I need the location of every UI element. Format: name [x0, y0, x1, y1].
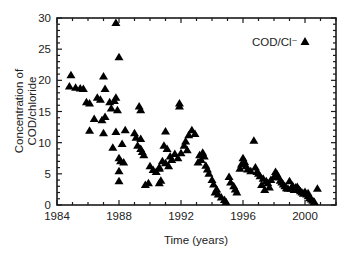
- scatter-chart: 19841988199219962000 051015202530 COD/Cl…: [0, 0, 350, 256]
- data-point: [85, 126, 94, 134]
- y-tick-label: 30: [38, 12, 51, 24]
- data-point: [118, 139, 127, 147]
- y-axis-title-line-2: COD/chloride: [26, 76, 38, 145]
- data-point: [101, 85, 110, 93]
- x-tick-label: 1988: [106, 210, 132, 222]
- data-point: [111, 128, 120, 136]
- data-point: [121, 126, 130, 134]
- data-point: [115, 53, 124, 61]
- data-point: [115, 177, 124, 185]
- legend: COD/Cl⁻: [252, 36, 310, 48]
- y-tick-label: 25: [38, 43, 51, 55]
- data-point: [108, 143, 117, 151]
- x-tick-label: 2000: [292, 210, 318, 222]
- data-point: [225, 172, 234, 180]
- legend-label: COD/Cl⁻: [252, 36, 298, 48]
- data-point: [249, 136, 258, 144]
- x-axis-title: Time (years): [164, 234, 228, 246]
- y-tick-label: 15: [38, 106, 51, 118]
- y-tick-label: 10: [38, 137, 51, 149]
- data-point: [90, 114, 99, 122]
- x-tick-label: 1992: [168, 210, 194, 222]
- y-tick-label: 5: [45, 168, 51, 180]
- data-point: [130, 129, 139, 137]
- data-point: [99, 129, 108, 137]
- data-point: [115, 167, 124, 175]
- data-point: [99, 72, 108, 80]
- x-tick-label: 1984: [44, 210, 70, 222]
- data-point: [313, 184, 322, 192]
- triangle-marker-icon: [301, 37, 310, 45]
- data-point: [161, 127, 170, 135]
- y-axis-title: Concentration of COD/chloride: [13, 68, 38, 153]
- y-tick-label: 0: [45, 199, 51, 211]
- data-point: [66, 71, 75, 79]
- y-axis-title-line-1: Concentration of: [13, 68, 25, 153]
- y-tick-label: 20: [38, 74, 51, 86]
- x-tick-label: 1996: [230, 210, 256, 222]
